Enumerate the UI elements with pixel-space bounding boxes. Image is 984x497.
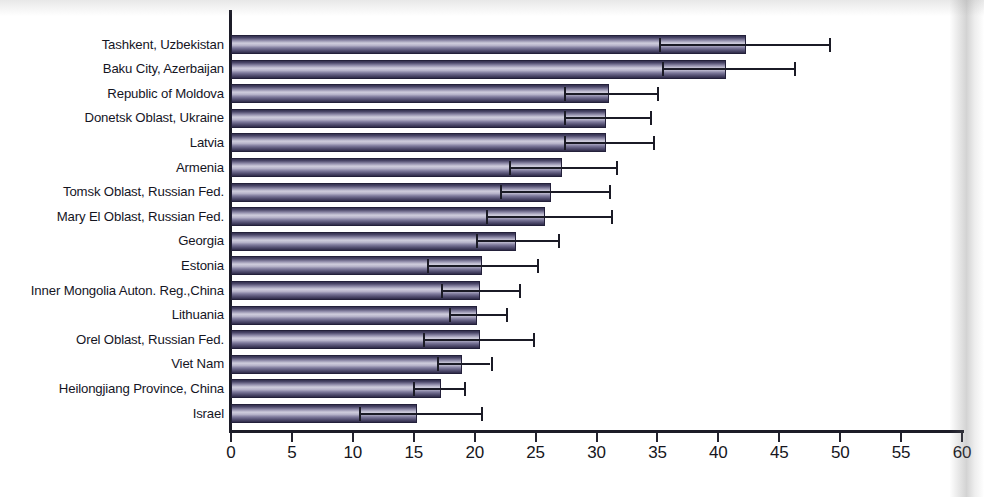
error-bar-cap-lower xyxy=(659,38,661,52)
error-bar-cap-upper xyxy=(519,284,521,298)
category-label: Latvia xyxy=(190,135,224,150)
error-bar-line xyxy=(509,167,616,169)
error-bar-cap-lower xyxy=(509,161,511,175)
bar xyxy=(231,379,441,398)
category-label: Mary El Oblast, Russian Fed. xyxy=(57,209,224,224)
error-bar-cap-lower xyxy=(500,185,502,199)
category-label: Baku City, Azerbaijan xyxy=(103,61,224,76)
error-bar-cap-upper xyxy=(611,210,613,224)
error-bar-cap-upper xyxy=(657,87,659,101)
error-bar-cap-lower xyxy=(441,284,443,298)
error-bar-line xyxy=(662,68,794,70)
error-bar-line xyxy=(441,290,519,292)
x-tick-label: 50 xyxy=(831,443,850,463)
bar xyxy=(231,133,606,152)
x-tick-label: 55 xyxy=(892,443,911,463)
error-bar-line xyxy=(564,117,651,119)
category-label: Georgia xyxy=(178,233,224,248)
bar xyxy=(231,306,477,325)
error-bar-line xyxy=(564,142,653,144)
category-label: Estonia xyxy=(181,258,224,273)
x-tick-label: 25 xyxy=(526,443,545,463)
error-bar-line xyxy=(413,388,464,390)
error-bar-cap-lower xyxy=(564,111,566,125)
x-tick-mark xyxy=(900,433,902,442)
bar xyxy=(231,84,609,103)
x-tick-mark xyxy=(961,433,963,442)
error-bar-cap-lower xyxy=(437,357,439,371)
error-bar-cap-lower xyxy=(486,210,488,224)
category-label: Tomsk Oblast, Russian Fed. xyxy=(63,184,224,199)
error-bar-line xyxy=(659,44,830,46)
bar xyxy=(231,355,462,374)
x-tick-mark xyxy=(535,433,537,442)
x-tick-label: 15 xyxy=(404,443,423,463)
category-label: Lithuania xyxy=(172,307,224,322)
error-bar-cap-upper xyxy=(533,333,535,347)
error-bar-cap-lower xyxy=(564,87,566,101)
category-label: Israel xyxy=(193,406,224,421)
x-tick-mark xyxy=(474,433,476,442)
error-bar-line xyxy=(449,314,506,316)
error-bar-cap-lower xyxy=(449,308,451,322)
category-label: Heilongjiang Province, China xyxy=(59,381,224,396)
x-tick-label: 35 xyxy=(648,443,667,463)
error-bar-cap-upper xyxy=(653,136,655,150)
x-tick-mark xyxy=(291,433,293,442)
error-bar-cap-upper xyxy=(650,111,652,125)
bar xyxy=(231,109,606,128)
error-bar-cap-upper xyxy=(506,308,508,322)
category-label: Inner Mongolia Auton. Reg.,China xyxy=(31,283,224,298)
category-axis-labels: Tashkent, UzbekistanBaku City, Azerbaija… xyxy=(0,0,224,497)
error-bar-cap-upper xyxy=(537,259,539,273)
error-bar-cap-lower xyxy=(564,136,566,150)
x-tick-mark xyxy=(413,433,415,442)
error-bar-cap-upper xyxy=(616,161,618,175)
x-tick-label: 10 xyxy=(344,443,363,463)
error-bar-cap-upper xyxy=(558,234,560,248)
error-bar-line xyxy=(427,265,537,267)
error-bar-line xyxy=(437,363,491,365)
error-bar-cap-lower xyxy=(427,259,429,273)
error-bar-cap-lower xyxy=(413,382,415,396)
category-label: Viet Nam xyxy=(171,356,224,371)
error-bar-cap-upper xyxy=(464,382,466,396)
category-label: Orel Oblast, Russian Fed. xyxy=(76,332,224,347)
x-tick-label: 0 xyxy=(226,443,235,463)
error-bar-cap-lower xyxy=(359,407,361,421)
x-tick-label: 5 xyxy=(287,443,296,463)
error-bar-cap-upper xyxy=(829,38,831,52)
x-tick-mark xyxy=(230,433,232,442)
x-tick-label: 60 xyxy=(953,443,972,463)
x-tick-mark xyxy=(596,433,598,442)
category-label: Tashkent, Uzbekistan xyxy=(102,37,224,52)
bar xyxy=(231,232,516,251)
error-bar-cap-upper xyxy=(609,185,611,199)
x-tick-label: 40 xyxy=(709,443,728,463)
x-tick-mark xyxy=(839,433,841,442)
error-bar-line xyxy=(476,240,558,242)
error-bar-line xyxy=(359,413,481,415)
error-bar-line xyxy=(486,216,611,218)
bar-chart: Tashkent, UzbekistanBaku City, Azerbaija… xyxy=(0,0,984,497)
error-bar-cap-lower xyxy=(476,234,478,248)
x-tick-label: 20 xyxy=(465,443,484,463)
error-bar-cap-upper xyxy=(491,357,493,371)
x-tick-mark xyxy=(656,433,658,442)
error-bar-cap-lower xyxy=(423,333,425,347)
error-bar-cap-upper xyxy=(794,62,796,76)
error-bar-line xyxy=(564,93,658,95)
error-bar-cap-upper xyxy=(481,407,483,421)
error-bar-line xyxy=(423,339,533,341)
error-bar-line xyxy=(500,191,608,193)
category-label: Donetsk Oblast, Ukraine xyxy=(85,110,224,125)
x-tick-label: 45 xyxy=(770,443,789,463)
x-tick-mark xyxy=(352,433,354,442)
x-tick-mark xyxy=(717,433,719,442)
x-tick-mark xyxy=(778,433,780,442)
error-bar-cap-lower xyxy=(662,62,664,76)
category-label: Republic of Moldova xyxy=(107,86,224,101)
x-tick-label: 30 xyxy=(587,443,606,463)
bar xyxy=(231,60,726,79)
category-label: Armenia xyxy=(176,160,224,175)
